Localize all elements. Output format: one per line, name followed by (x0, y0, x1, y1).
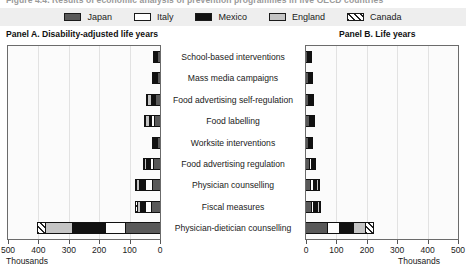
stacked-bar[interactable] (306, 158, 316, 170)
category-label: Mass media campaigns (163, 73, 303, 83)
axis-tick (38, 240, 39, 244)
stacked-bar[interactable] (306, 179, 320, 191)
bar-segment-canada (310, 51, 312, 63)
axis-tick-label: 300 (62, 245, 76, 255)
panel-b-title: Panel B. Life years (339, 29, 415, 39)
stacked-bar[interactable] (306, 201, 321, 213)
category-label: Food labelling (163, 116, 303, 126)
bar-row (8, 201, 160, 213)
axis-tick (8, 240, 9, 244)
panel-a-title: Panel A. Disability-adjusted life years (6, 29, 158, 39)
bar-segment-italy (105, 222, 126, 234)
stacked-bar[interactable] (135, 179, 160, 191)
bar-row (306, 94, 458, 106)
bar-row (306, 51, 458, 63)
figure-title: Figure 4.4. Results of economic analysis… (6, 0, 383, 5)
stacked-bar[interactable] (152, 137, 160, 149)
figure-container: Figure 4.4. Results of economic analysis… (0, 0, 466, 270)
bar-row (8, 94, 160, 106)
axis-tick-label: 100 (123, 245, 137, 255)
bar-row (8, 51, 160, 63)
bar-segment-japan (125, 222, 161, 234)
category-label-column: School-based interventionsMass media cam… (163, 45, 303, 240)
stacked-bar[interactable] (306, 115, 315, 127)
legend-item-label: Canada (370, 12, 402, 22)
axis-tick-label: 500 (1, 245, 15, 255)
stacked-bar[interactable] (306, 222, 374, 234)
stacked-bar[interactable] (37, 222, 160, 234)
legend-item-label: Mexico (218, 12, 247, 22)
bar-row (8, 222, 160, 234)
panel-b-tick-marks (305, 240, 459, 244)
legend-swatch-icon (347, 13, 364, 21)
axis-tick-label: 0 (304, 245, 309, 255)
panel-b-plot-area (305, 45, 459, 240)
bar-row (8, 179, 160, 191)
panel-a-tick-marks (7, 240, 161, 244)
figure-title-strip: Figure 4.4. Results of economic analysis… (0, 0, 466, 7)
category-label: School-based interventions (163, 52, 303, 62)
stacked-bar[interactable] (146, 94, 160, 106)
legend-swatch-icon (269, 13, 286, 21)
chart-legend: JapanItalyMexicoEnglandCanada (0, 8, 466, 26)
category-label: Physician-dietician counselling (163, 223, 303, 233)
bar-segment-mexico (72, 222, 106, 234)
category-label: Food advertising regulation (163, 159, 303, 169)
axis-tick-label: 400 (421, 245, 435, 255)
bar-segment-canada (318, 179, 320, 191)
panel-a-plot-area (7, 45, 161, 240)
stacked-bar[interactable] (306, 51, 312, 63)
stacked-bar[interactable] (143, 158, 160, 170)
stacked-bar[interactable] (135, 201, 160, 213)
bar-segment-japan (157, 72, 161, 84)
stacked-bar[interactable] (306, 137, 313, 149)
axis-tick (336, 240, 337, 244)
axis-tick-label: 0 (158, 245, 163, 255)
bar-segment-canada (311, 72, 313, 84)
bar-row (8, 158, 160, 170)
legend-swatch-icon (134, 13, 151, 21)
bar-segment-canada (313, 115, 315, 127)
stacked-bar[interactable] (153, 51, 160, 63)
bar-row (306, 137, 458, 149)
axis-tick-label: 400 (31, 245, 45, 255)
stacked-bar[interactable] (306, 94, 314, 106)
axis-tick-label: 100 (329, 245, 343, 255)
bar-row (306, 201, 458, 213)
axis-tick-label: 500 (451, 245, 465, 255)
bar-segment-japan (157, 51, 161, 63)
legend-item-england: England (269, 12, 325, 22)
stacked-bar[interactable] (152, 72, 160, 84)
axis-tick-label: 200 (92, 245, 106, 255)
legend-swatch-icon (64, 13, 81, 21)
bar-segment-japan (305, 222, 328, 234)
bar-row (306, 179, 458, 191)
bar-segment-japan (154, 115, 161, 127)
bar-segment-canada (365, 222, 374, 234)
axis-tick (397, 240, 398, 244)
axis-tick (428, 240, 429, 244)
category-label: Fiscal measures (163, 202, 303, 212)
axis-tick (306, 240, 307, 244)
bar-segment-canada (312, 94, 314, 106)
axis-tick (367, 240, 368, 244)
stacked-bar[interactable] (306, 72, 313, 84)
axis-tick (160, 240, 161, 244)
axis-tick (458, 240, 459, 244)
category-label: Worksite interventions (163, 138, 303, 148)
legend-item-canada: Canada (347, 12, 402, 22)
bar-segment-canada (311, 137, 313, 149)
bar-segment-japan (151, 201, 161, 213)
bar-segment-japan (155, 94, 161, 106)
bar-row (306, 222, 458, 234)
category-label: Food advertising self-regulation (163, 95, 303, 105)
bar-row (306, 72, 458, 84)
legend-item-label: Japan (87, 12, 112, 22)
legend-item-mexico: Mexico (195, 12, 247, 22)
stacked-bar[interactable] (144, 115, 160, 127)
bar-row (306, 158, 458, 170)
axis-tick (130, 240, 131, 244)
legend-item-italy: Italy (134, 12, 174, 22)
bar-segment-england (45, 222, 72, 234)
bar-segment-canada (314, 158, 316, 170)
